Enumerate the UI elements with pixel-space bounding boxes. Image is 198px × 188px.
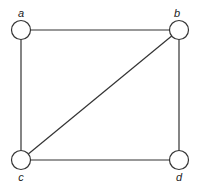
edges [21, 30, 179, 160]
node-c [12, 151, 31, 170]
node-label-b: b [174, 7, 180, 19]
node-label-a: a [18, 7, 24, 19]
node-label-d: d [176, 171, 183, 183]
node-d [170, 151, 189, 170]
edge-b-c [21, 30, 179, 160]
graph-diagram: a b c d [0, 0, 198, 188]
node-a [12, 21, 31, 40]
node-label-c: c [18, 171, 24, 183]
node-b [170, 21, 189, 40]
